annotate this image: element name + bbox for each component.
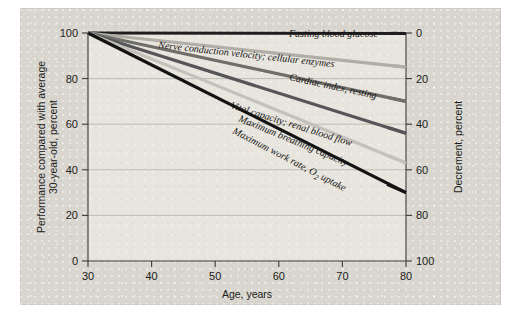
series-label-cardiac-index-resting: Cardiac index, resting [289, 71, 378, 101]
series-leader-cardiac-index-resting [389, 98, 406, 102]
y-tick-label-100: 100 [60, 27, 78, 39]
y-tick-label-20: 20 [66, 209, 78, 221]
y-axis-left-ticks [82, 33, 88, 261]
x-tick-label-70: 70 [336, 270, 348, 282]
x-tick-label-60: 60 [273, 270, 285, 282]
y-axis-right-labels: 0 20 40 60 80 100 [416, 27, 434, 267]
y-tick-label-80: 80 [66, 73, 78, 85]
x-axis-labels: 30 40 50 60 70 80 [82, 270, 412, 282]
y-axis-left-title-line1: Performance compared with average [35, 61, 47, 233]
y2-tick-label-80: 80 [416, 209, 428, 221]
x-tick-label-80: 80 [400, 270, 412, 282]
y-axis-right-ticks [406, 33, 412, 261]
series-leader-nerve-conduction-velocity [392, 66, 406, 68]
y2-tick-label-0: 0 [416, 27, 422, 39]
series-leader-vital-capacity-renal-blood-flow [388, 128, 406, 134]
y-axis-right-title: Decrement, percent [452, 101, 464, 193]
y-tick-label-60: 60 [66, 118, 78, 130]
x-tick-label-30: 30 [82, 270, 94, 282]
x-tick-label-50: 50 [209, 270, 221, 282]
y-axis-left-labels: 100 80 60 40 20 0 [60, 27, 78, 267]
chart-svg: 100 80 60 40 20 0 0 20 40 60 80 100 [0, 0, 521, 327]
x-axis-ticks [88, 261, 406, 267]
series-label-fasting-blood-glucose: Fasting blood glucose [288, 28, 378, 39]
y2-tick-label-40: 40 [416, 118, 428, 130]
series-leader-maximum-breathing-capacity [388, 156, 406, 163]
y2-tick-label-20: 20 [416, 73, 428, 85]
chart-figure: 100 80 60 40 20 0 0 20 40 60 80 100 [0, 0, 521, 327]
x-tick-label-40: 40 [145, 270, 157, 282]
series-leader-maximum-work-rate-o2-uptake [387, 184, 406, 192]
x-axis-title: Age, years [222, 288, 272, 300]
y-tick-label-0: 0 [72, 255, 78, 267]
series-label-work-rate-tail: uptake [317, 170, 348, 193]
y2-tick-label-60: 60 [416, 164, 428, 176]
y-axis-left-title-line2: 30-year-old, percent [47, 100, 59, 194]
y-tick-label-40: 40 [66, 164, 78, 176]
y2-tick-label-100: 100 [416, 255, 434, 267]
